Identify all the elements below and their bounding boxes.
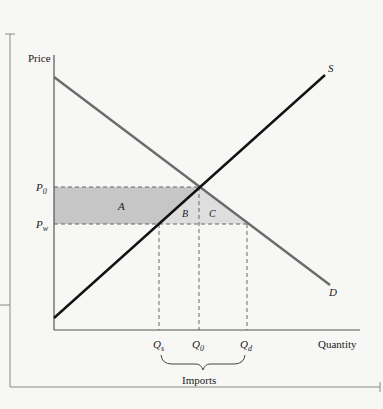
imports-brace <box>161 355 245 370</box>
supply-label: S <box>328 62 334 74</box>
price-pw-label: Pw <box>35 218 49 233</box>
region-a-label: A <box>117 200 125 212</box>
quantity-qd-label: Qd <box>240 338 253 353</box>
region-c-label: C <box>209 208 216 219</box>
price-p0-label: P0 <box>35 181 47 196</box>
x-axis-label: Quantity <box>318 338 357 350</box>
imports-label: Imports <box>182 374 216 386</box>
quantity-q0-label: Q0 <box>192 338 204 353</box>
import-diagram: Price Quantity S D P0 Pw A B C Qs Q0 Qd … <box>0 0 383 409</box>
quantity-qs-label: Qs <box>153 338 164 353</box>
region-b-label: B <box>182 208 188 219</box>
demand-label: D <box>328 286 337 298</box>
y-axis-label: Price <box>28 52 51 64</box>
